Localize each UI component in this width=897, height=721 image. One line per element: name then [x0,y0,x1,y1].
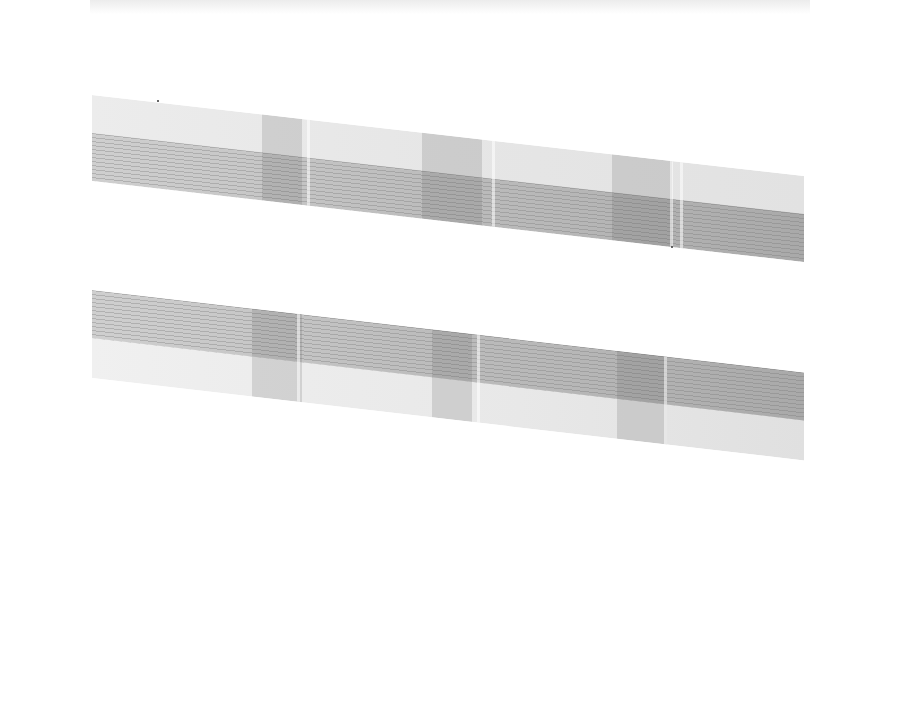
streak [492,141,495,227]
streak [670,161,673,247]
darker-segment [612,154,672,247]
darker-segment [252,309,302,403]
darker-segment [422,133,482,226]
darker-segment [262,114,302,205]
lower-strip [92,290,804,460]
streak [680,162,683,248]
darker-segment [617,351,667,445]
streak [307,119,310,205]
streak [297,314,300,402]
dust-speck [671,246,673,248]
upper-strip [92,95,804,262]
streak [477,335,480,423]
darker-segment [432,329,472,422]
dust-speck [157,100,159,102]
top-edge-smudge [90,0,810,14]
streak [664,356,667,444]
